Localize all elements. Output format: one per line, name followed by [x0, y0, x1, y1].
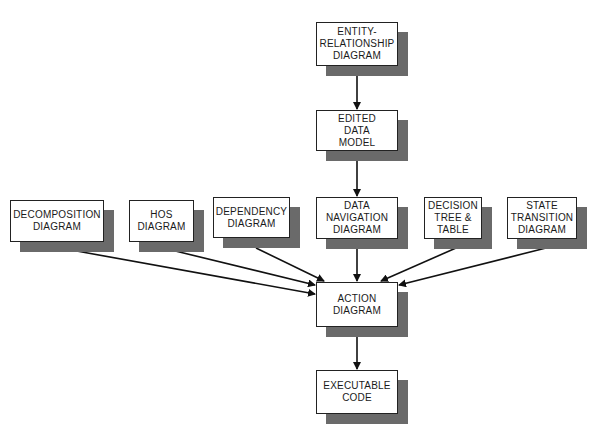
node-label: STATE TRANSITION DIAGRAM: [511, 200, 574, 236]
node-label: ACTION DIAGRAM: [333, 293, 381, 317]
node-label: DECISION TREE & TABLE: [428, 200, 478, 236]
node-executable-code: EXECUTABLE CODE: [316, 370, 398, 414]
node-edited-data-model: EDITED DATA MODEL: [316, 110, 398, 151]
node-state-transition: STATE TRANSITION DIAGRAM: [507, 197, 577, 239]
edge-dependency-to-action: [256, 248, 324, 281]
node-label: DATA NAVIGATION DIAGRAM: [326, 200, 388, 236]
node-label: DECOMPOSITION DIAGRAM: [13, 209, 101, 233]
node-entity-relationship: ENTITY- RELATIONSHIP DIAGRAM: [316, 22, 398, 66]
node-label: ENTITY- RELATIONSHIP DIAGRAM: [319, 26, 394, 62]
node-decision-tree: DECISION TREE & TABLE: [424, 197, 482, 239]
node-label: HOS DIAGRAM: [137, 209, 185, 233]
node-decomposition: DECOMPOSITION DIAGRAM: [10, 200, 104, 242]
edge-decision-to-action: [381, 248, 456, 281]
edge-hos-to-action: [163, 248, 315, 285]
edge-decomposition-to-action: [60, 248, 315, 294]
node-data-navigation: DATA NAVIGATION DIAGRAM: [316, 197, 398, 239]
edge-state-to-action: [399, 248, 546, 285]
node-action: ACTION DIAGRAM: [316, 282, 398, 327]
node-label: EXECUTABLE CODE: [323, 380, 390, 404]
node-label: DEPENDENCY DIAGRAM: [216, 206, 287, 230]
node-hos: HOS DIAGRAM: [129, 200, 194, 242]
node-label: EDITED DATA MODEL: [338, 113, 376, 149]
node-dependency: DEPENDENCY DIAGRAM: [213, 197, 290, 238]
